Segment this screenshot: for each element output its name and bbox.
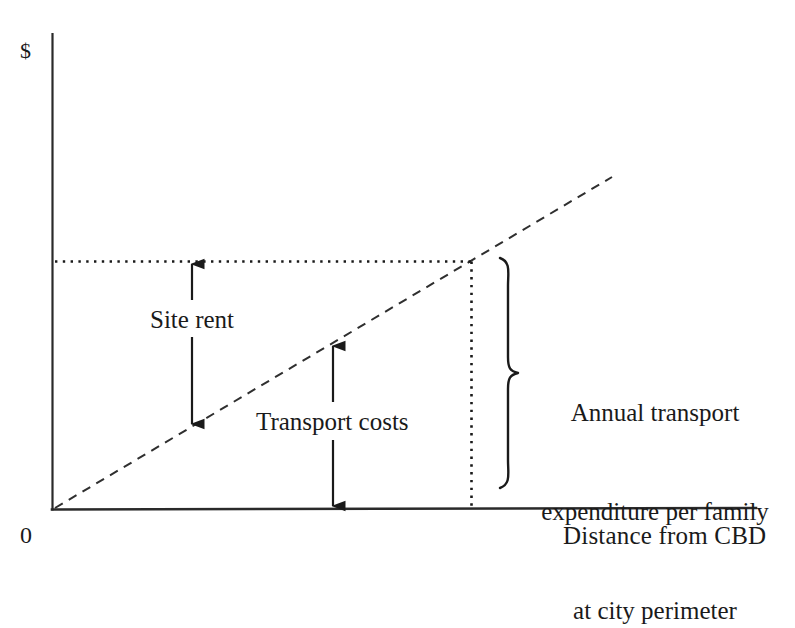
annual-expenditure-label-line-2: expenditure per family [530,495,780,528]
annual-expenditure-brace [500,258,518,488]
origin-label: 0 [20,521,32,549]
annual-expenditure-label-line-1: Annual transport [530,396,780,429]
y-axis-label: $ [20,38,31,64]
transport-costs-label: Transport costs [256,407,409,437]
annual-expenditure-label: Annual transport expenditure per family … [530,330,780,628]
site-rent-label: Site rent [150,305,234,335]
annual-expenditure-label-line-3: at city perimeter [530,594,780,627]
